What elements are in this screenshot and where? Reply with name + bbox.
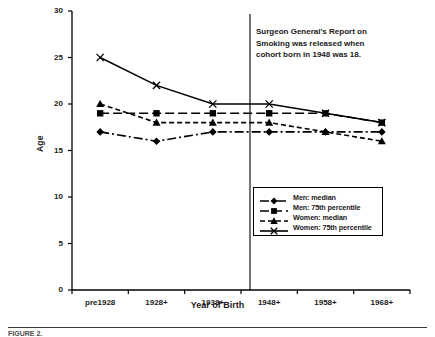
legend-key-square-icon (259, 202, 289, 212)
datapoint-1948plus (266, 110, 272, 116)
x-tick-1968plus: 1968+ (371, 298, 393, 307)
y-tick-5: 5 (39, 239, 63, 248)
legend-item-women-75th-percentile: Women: 75th percentile (259, 222, 377, 232)
x-tick-1938plus: 1938+ (202, 298, 224, 307)
x-tick-1928plus: 1928+ (145, 298, 167, 307)
chart-legend: Men: medianMen: 75th percentileWomen: me… (253, 187, 383, 236)
datapoint-pre1928 (97, 54, 104, 61)
datapoint-pre1928 (97, 110, 103, 116)
legend-item-men-75th-percentile: Men: 75th percentile (259, 202, 377, 212)
legend-key-cross-icon (259, 222, 289, 232)
datapoint-1928plus (153, 110, 159, 116)
datapoint-1948plus (265, 128, 273, 136)
datapoint-1928plus (153, 82, 160, 89)
datapoint-1928plus (153, 137, 161, 145)
legend-key-diamond-icon (259, 192, 289, 202)
legend-item-men-median: Men: median (259, 192, 377, 202)
y-tick-25: 25 (39, 53, 63, 62)
datapoint-1968plus (378, 128, 386, 136)
x-tick-1948plus: 1948+ (258, 298, 280, 307)
datapoint-pre1928 (96, 100, 104, 107)
series-women-75th-percentile (97, 54, 386, 126)
annotation-surgeon-general-note: Surgeon General's Report on Smoking was … (256, 26, 380, 61)
legend-label: Women: median (289, 213, 347, 222)
legend-label: Men: 75th percentile (289, 203, 361, 212)
datapoint-1938plus (209, 128, 217, 136)
x-tick-pre1928: pre1928 (85, 298, 115, 307)
y-tick-30: 30 (39, 6, 63, 15)
legend-item-women-median: Women: median (259, 212, 377, 222)
series-men-median (96, 128, 385, 145)
y-tick-10: 10 (39, 192, 63, 201)
y-tick-0: 0 (39, 285, 63, 294)
datapoint-1938plus (210, 110, 216, 116)
legend-key-triangle-icon (259, 212, 289, 222)
y-tick-15: 15 (39, 146, 63, 155)
caption-divider (8, 327, 427, 328)
figure-caption: FIGURE 2. (8, 330, 427, 337)
legend-label: Men: median (289, 193, 336, 202)
x-tick-1958plus: 1958+ (314, 298, 336, 307)
y-tick-20: 20 (39, 99, 63, 108)
data-series-layer (96, 54, 386, 145)
figure-smoking-initiation-age: Age Year of Birth 051015202530 pre192819… (0, 0, 435, 337)
legend-label: Women: 75th percentile (289, 223, 372, 232)
datapoint-pre1928 (96, 128, 104, 136)
